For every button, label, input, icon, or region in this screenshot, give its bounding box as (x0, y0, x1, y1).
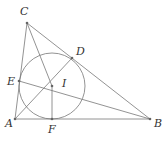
side-bc (27, 23, 150, 119)
segment-eb (19, 81, 150, 119)
label-c: C (20, 5, 29, 18)
point-b (149, 118, 152, 121)
point-d (71, 57, 74, 60)
label-e: E (6, 75, 15, 88)
label-d: D (75, 45, 85, 58)
label-a: A (4, 117, 13, 130)
point-c (26, 22, 29, 25)
label-i: I (61, 77, 67, 90)
label-b: B (153, 117, 162, 130)
point-i (51, 85, 54, 88)
geometry-diagram: A B C D E F I (0, 0, 167, 143)
point-f (51, 118, 54, 121)
label-f: F (47, 123, 56, 136)
point-e (18, 80, 21, 83)
point-a (14, 118, 17, 121)
